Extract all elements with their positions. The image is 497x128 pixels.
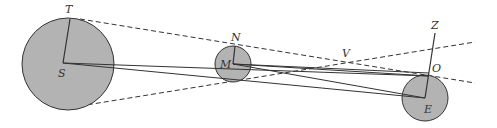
- label-M: M: [219, 58, 232, 71]
- label-E: E: [423, 103, 432, 116]
- sun-moon-earth-diagram: T S N M V Z O E: [0, 0, 497, 128]
- line-M-O-parallel: [233, 64, 429, 73]
- label-N: N: [230, 31, 241, 44]
- label-T: T: [65, 3, 74, 16]
- label-S: S: [58, 67, 66, 80]
- upper-tangent-dashed: [80, 19, 475, 83]
- label-V: V: [342, 47, 351, 60]
- line-M-E: [233, 64, 425, 98]
- label-Z: Z: [430, 19, 439, 32]
- label-O: O: [432, 62, 441, 75]
